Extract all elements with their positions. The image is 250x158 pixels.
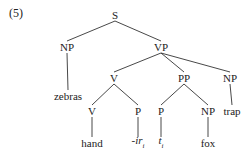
node-label: fox [201,137,216,149]
node-label: NP [60,41,74,53]
tree-node-np2: NP [223,72,237,84]
tree-edge-V1-P1 [114,84,138,105]
tree-node-v2: V [88,105,96,117]
tree-node-pp: PP [178,72,190,84]
tree-edge-NP2-trap [230,84,232,105]
tree-node-trap: trap [223,105,240,117]
tree-node-s: S [112,9,118,21]
tree-edge-S-VP [115,21,161,41]
tree-edge-V1-V2 [92,84,114,105]
tree-node-p1: P [135,105,141,117]
tree-edge-NP1-zeb [67,53,68,90]
node-label: S [112,9,118,21]
tree-node-vp: VP [154,41,168,53]
tree-node-np1: NP [60,41,74,53]
node-label: NP [223,72,237,84]
node-label: trap [223,105,240,117]
tree-edge-VP-V1 [114,53,161,72]
tree-edges [0,0,250,158]
node-label: hand [81,137,102,149]
node-label: zebras [54,90,82,102]
tree-edge-S-NP1 [67,21,115,41]
node-subscript: i [162,142,164,150]
node-subscript: i [143,142,145,150]
node-label: VP [154,41,168,53]
tree-node-np3: NP [201,105,215,117]
tree-edge-VP-NP2 [161,53,230,72]
node-label: PP [178,72,190,84]
node-label: NP [201,105,215,117]
tree-node-zeb: zebras [54,90,82,102]
tree-edge-PP-P2 [161,84,184,105]
node-label: V [110,72,118,84]
tree-node-ir: -iri [132,134,145,151]
node-label: P [135,105,141,117]
tree-node-hand: hand [81,137,102,149]
tree-node-v1: V [110,72,118,84]
node-label: P [158,105,164,117]
tree-node-t: ti [158,134,163,151]
tree-node-p2: P [158,105,164,117]
node-label: -ir [132,134,143,146]
node-label: V [88,105,96,117]
tree-node-fox: fox [201,137,216,149]
tree-edge-PP-NP3 [184,84,208,105]
